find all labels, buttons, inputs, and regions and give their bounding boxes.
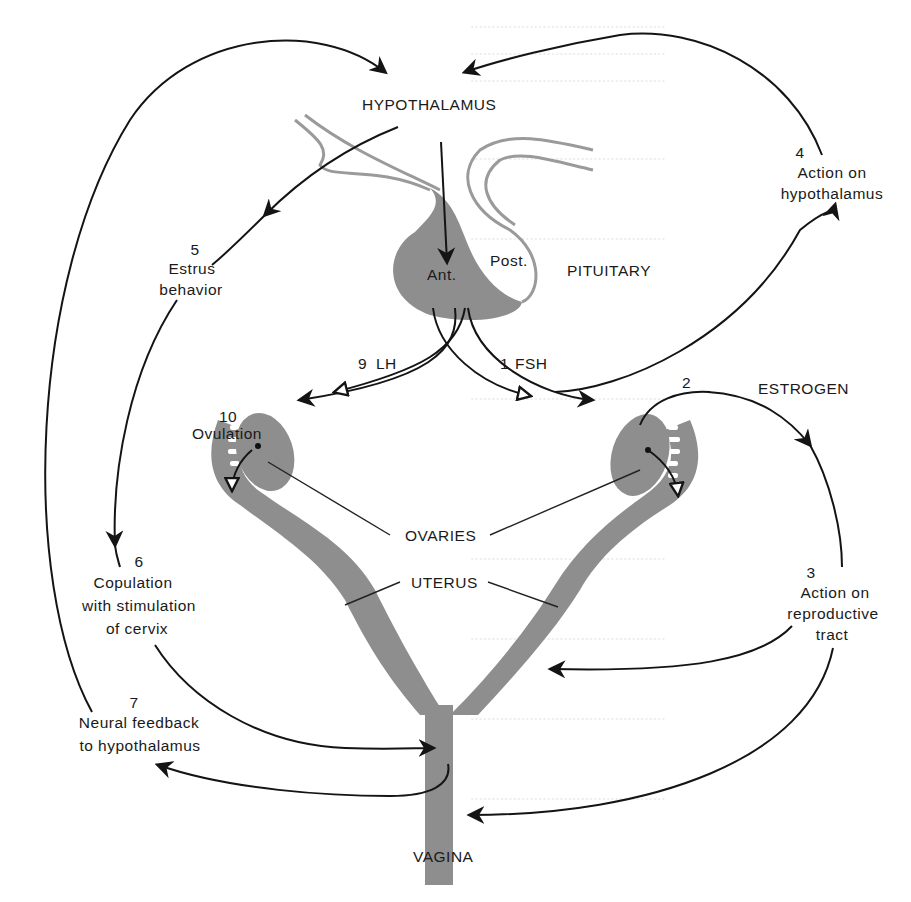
svg-text:..............................: ........................................… <box>470 625 666 644</box>
step-2-num: 2 <box>682 374 691 391</box>
uterus-label: UTERUS <box>411 574 478 591</box>
step-7-line1: Neural feedback <box>79 714 199 731</box>
step-4-num: 4 <box>795 144 804 161</box>
svg-text:..............................: ........................................… <box>470 40 666 59</box>
step-4-line1: Action on <box>797 164 866 181</box>
arrow-estrogen-segment <box>810 445 842 567</box>
arrow-behavior-to-copulation <box>115 300 177 545</box>
hypothalamus-label: HYPOTHALAMUS <box>362 96 496 113</box>
arrow-copulation-segment <box>115 545 120 567</box>
estrous-cycle-diagram: ........................................… <box>0 0 911 902</box>
anterior-label: Ant. <box>427 266 457 283</box>
step-6-line3: of cervix <box>106 620 168 637</box>
step-3-line3: tract <box>816 626 849 643</box>
step-7-num: 7 <box>129 694 138 711</box>
step-6-line2: with stimulation <box>81 597 196 614</box>
step-9-num: 9 <box>358 355 367 372</box>
arrow-cervix-to-neural <box>158 764 448 796</box>
svg-text:..............................: ........................................… <box>470 785 666 804</box>
step-6-line1: Copulation <box>93 574 172 591</box>
step-5-line1: Estrus <box>169 260 216 277</box>
step-4-line2: hypothalamus <box>781 185 884 202</box>
step-6-num: 6 <box>134 553 143 570</box>
step-7-line2: to hypothalamus <box>79 737 200 754</box>
step-3-num: 3 <box>806 564 815 581</box>
svg-text:..............................: ........................................… <box>470 385 666 404</box>
arrow-lh-to-left-ovary <box>300 308 456 400</box>
estrogen-label: ESTROGEN <box>758 380 849 397</box>
step-5-line2: behavior <box>159 281 222 298</box>
svg-text:..............................: ........................................… <box>470 67 666 86</box>
step-10-num: 10 <box>219 408 237 425</box>
step-10-line1: Ovulation <box>192 425 262 442</box>
hypothalamus-outline-left <box>295 120 430 190</box>
svg-text:..............................: ........................................… <box>470 705 666 724</box>
arrow-fsh-open-to-left <box>335 308 465 392</box>
svg-text:..............................: ........................................… <box>470 13 666 32</box>
reproductive-tract <box>211 405 698 885</box>
step-3-line1: Action on <box>800 584 869 601</box>
step-5-num: 5 <box>190 241 199 258</box>
vagina-label: VAGINA <box>413 848 474 865</box>
svg-text:..............................: ........................................… <box>470 545 666 564</box>
step-1-label: FSH <box>515 355 548 372</box>
step-9-label: LH <box>376 355 397 372</box>
posterior-label: Post. <box>490 252 528 269</box>
ovaries-label: OVARIES <box>405 527 476 544</box>
feedback-arrows <box>45 34 842 815</box>
arrow-lh-open-to-right <box>433 308 530 396</box>
arrow-estrogen-to-reproductive-tract <box>708 392 810 445</box>
hypothalamus-outline-left-2 <box>305 115 440 190</box>
arrow-estrus-segment <box>212 215 265 265</box>
left-follicle-dot <box>255 443 261 449</box>
step-3-line2: reproductive <box>787 605 878 622</box>
pituitary-label: PITUITARY <box>567 262 651 279</box>
svg-text:..............................: ........................................… <box>470 225 666 244</box>
step-1-num: 1 <box>500 355 509 372</box>
posterior-pituitary-outline-inner <box>486 156 593 225</box>
